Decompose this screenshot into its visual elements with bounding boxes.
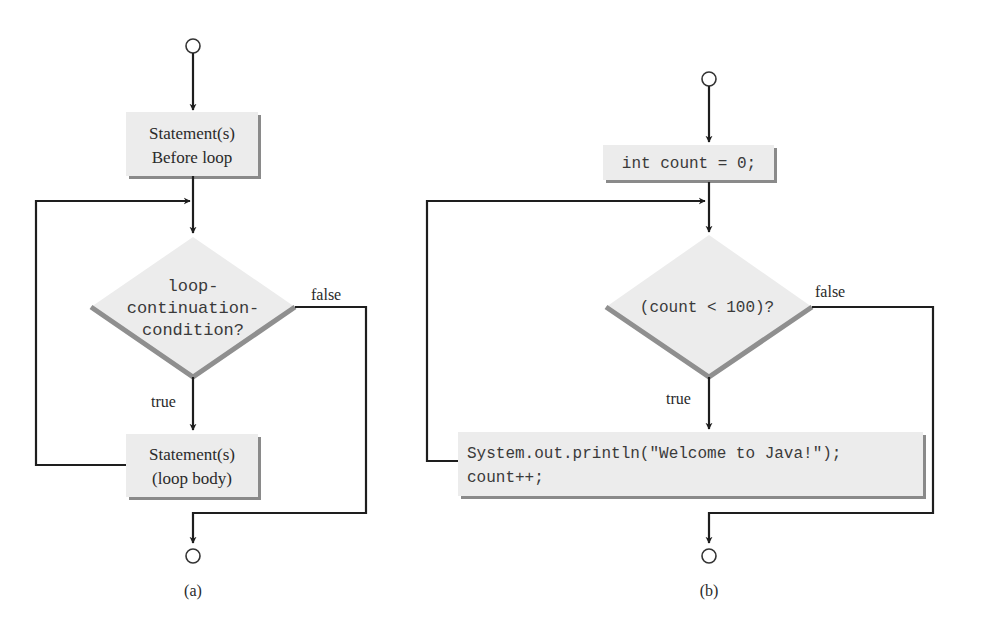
decision-line-3: condition? <box>142 321 244 340</box>
start-terminal-icon <box>186 39 200 53</box>
decision-line-1: loop- <box>167 277 218 296</box>
flowchart-b: int count = 0; (count < 100)? false true… <box>427 72 933 600</box>
false-label: false <box>311 286 341 303</box>
loop-body-line-1: Statement(s) <box>149 445 235 464</box>
loop-body-line-2: (loop body) <box>152 469 232 488</box>
flowchart-figure: Statement(s) Before loop loop- continuat… <box>0 0 1002 629</box>
decision-diamond: (count < 100)? <box>606 235 812 377</box>
statement-before-loop-line-1: Statement(s) <box>149 124 235 143</box>
init-statement-text: int count = 0; <box>622 155 756 173</box>
init-statement-box: int count = 0; <box>603 145 777 183</box>
start-terminal-icon <box>702 72 716 86</box>
loop-body-line-2: count++; <box>467 469 544 487</box>
statement-before-loop-line-2: Before loop <box>152 148 233 167</box>
caption-a: (a) <box>184 582 202 600</box>
decision-condition-text: (count < 100)? <box>640 299 774 317</box>
end-terminal-icon <box>186 549 200 563</box>
loop-body-box: Statement(s) (loop body) <box>126 434 261 500</box>
loop-body-box: System.out.println("Welcome to Java!"); … <box>458 432 926 499</box>
caption-b: (b) <box>700 582 719 600</box>
false-label: false <box>815 283 845 300</box>
true-label: true <box>666 390 691 407</box>
statement-before-loop-box: Statement(s) Before loop <box>126 112 261 179</box>
end-terminal-icon <box>702 549 716 563</box>
decision-line-2: continuation- <box>127 299 260 318</box>
decision-diamond: loop- continuation- condition? <box>91 237 295 377</box>
true-label: true <box>151 393 176 410</box>
loop-body-line-1: System.out.println("Welcome to Java!"); <box>467 445 841 463</box>
flowchart-a: Statement(s) Before loop loop- continuat… <box>36 39 366 600</box>
